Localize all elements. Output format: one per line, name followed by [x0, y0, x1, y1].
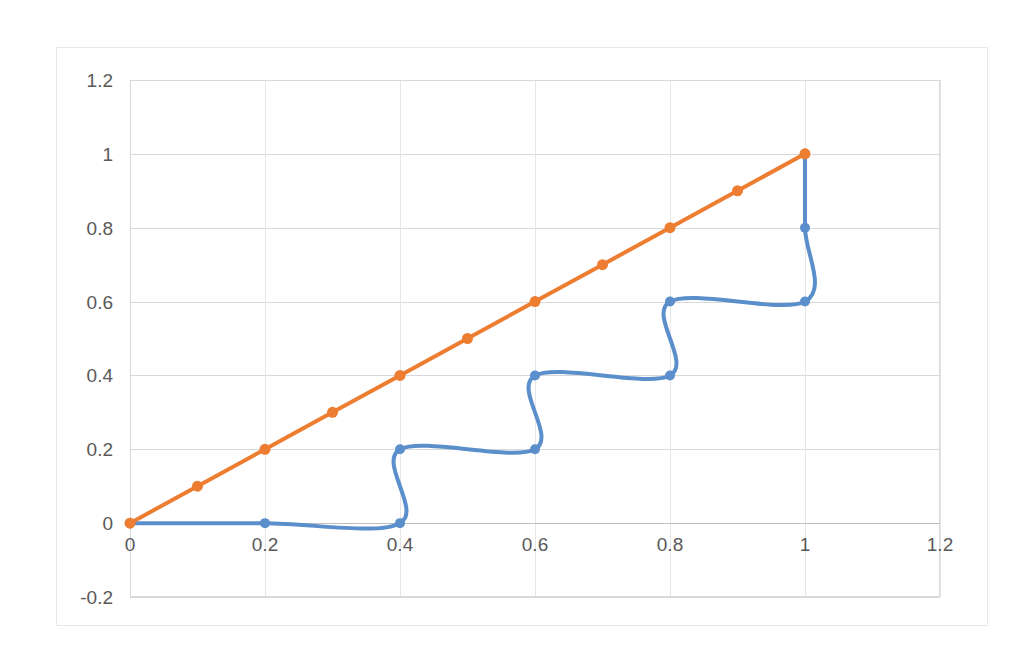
series-2-marker — [530, 296, 541, 307]
y-tick-label: 0.4 — [87, 365, 114, 386]
series-2-marker — [327, 407, 338, 418]
series-1-marker — [800, 297, 810, 307]
x-tick-label: 0 — [125, 534, 136, 555]
series-2-marker — [597, 259, 608, 270]
y-tick-label: 0 — [102, 513, 113, 534]
series-1-marker — [530, 444, 540, 454]
y-axis-tick-labels: -0.200.20.40.60.811.2 — [80, 70, 113, 608]
series-1-marker — [665, 297, 675, 307]
series-2-marker — [260, 444, 271, 455]
series-2-marker — [800, 148, 811, 159]
series-1-marker — [260, 518, 270, 528]
series-2-marker — [665, 222, 676, 233]
x-tick-label: 0.2 — [252, 534, 278, 555]
series-2-marker — [192, 481, 203, 492]
chart-root: -0.200.20.40.60.811.2 00.20.40.60.811.2 — [0, 0, 1032, 660]
series-1-marker — [800, 223, 810, 233]
y-tick-label: 1.2 — [87, 70, 113, 91]
y-tick-label: 0.6 — [87, 292, 113, 313]
y-tick-label: 1 — [102, 144, 113, 165]
y-tick-label: 0.2 — [87, 439, 113, 460]
x-tick-label: 0.4 — [387, 534, 414, 555]
x-tick-label: 1.2 — [927, 534, 953, 555]
series-lines — [130, 154, 815, 529]
y-tick-label: 0.8 — [87, 218, 113, 239]
x-axis-tick-labels: 00.20.40.60.811.2 — [125, 534, 954, 555]
x-tick-label: 1 — [800, 534, 811, 555]
y-tick-label: -0.2 — [80, 587, 113, 608]
series-1-marker — [395, 444, 405, 454]
x-tick-label: 0.6 — [522, 534, 548, 555]
series-2-marker — [125, 518, 136, 529]
series-2-marker — [395, 370, 406, 381]
series-1-marker — [395, 518, 405, 528]
series-1-marker — [530, 370, 540, 380]
gridlines-vertical — [131, 80, 941, 597]
x-tick-label: 0.8 — [657, 534, 683, 555]
series-2-marker — [462, 333, 473, 344]
chart-plot-area: -0.200.20.40.60.811.2 00.20.40.60.811.2 — [0, 0, 1032, 660]
series-line-1 — [130, 154, 815, 529]
series-1-marker — [665, 370, 675, 380]
series-2-marker — [732, 185, 743, 196]
